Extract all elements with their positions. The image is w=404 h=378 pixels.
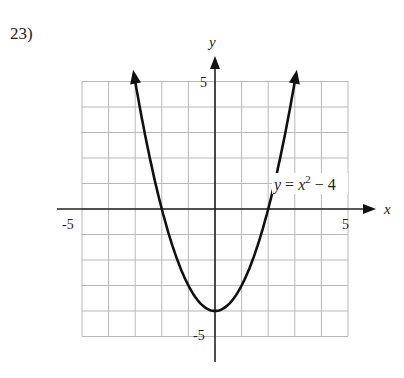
- y-tick-label-max: 5: [200, 75, 207, 90]
- graph: x y -5 5 5 -5 y = x2 − 4: [0, 0, 404, 378]
- x-axis-arrow-icon: [363, 204, 376, 214]
- equation-label: y = x2 − 4: [272, 173, 336, 194]
- curve-arrow-right-icon: [289, 70, 300, 85]
- x-tick-label-min: -5: [62, 217, 74, 232]
- curve-arrow-left-icon: [130, 70, 141, 85]
- axes: [57, 56, 376, 362]
- y-axis-label: y: [207, 34, 216, 50]
- x-tick-label-max: 5: [342, 217, 349, 232]
- y-tick-label-min: -5: [193, 328, 205, 343]
- y-axis-arrow-icon: [210, 56, 220, 69]
- x-axis-label: x: [383, 201, 391, 217]
